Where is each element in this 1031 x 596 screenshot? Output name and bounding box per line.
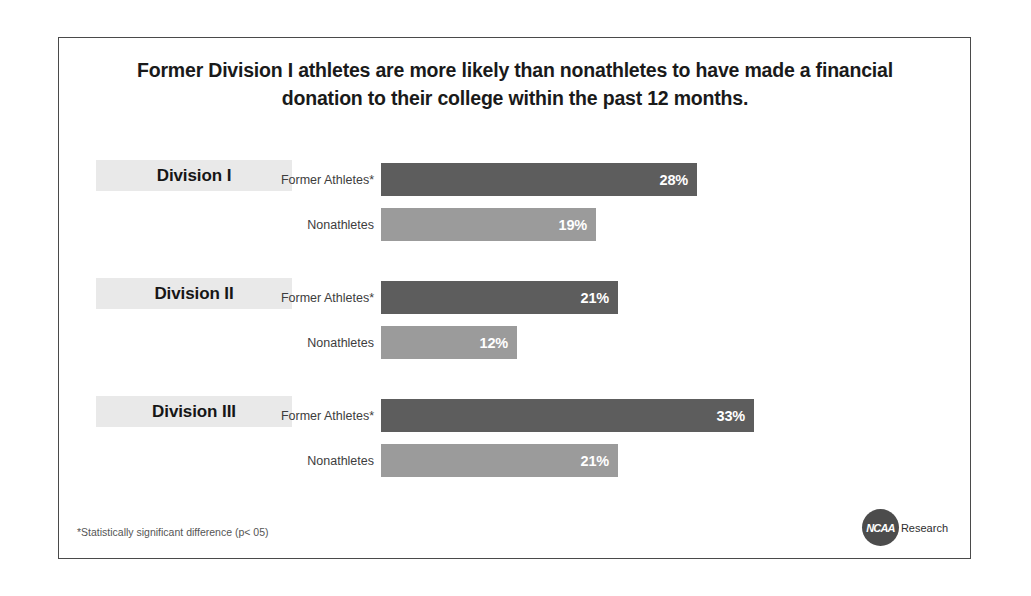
bar-row-label: Nonathletes [199, 218, 374, 232]
bar-row: Former Athletes* 33% [59, 396, 972, 435]
bar-track: 12% [381, 326, 517, 359]
bar-former-athletes: 21% [381, 281, 618, 314]
bar-value-label: 28% [660, 172, 688, 188]
ncaa-logo-mark: NCAA [866, 522, 895, 534]
footnote: *Statistically significant difference (p… [77, 526, 269, 538]
bar-row: Nonathletes 19% [59, 205, 972, 244]
bar-track: 21% [381, 444, 618, 477]
bar-row-label: Former Athletes* [199, 291, 374, 305]
bar-value-label: 12% [480, 335, 508, 351]
bar-value-label: 21% [581, 290, 609, 306]
bar-former-athletes: 33% [381, 399, 754, 432]
slide-frame: Former Division I athletes are more like… [58, 37, 971, 559]
ncaa-logo-icon: NCAA [862, 509, 899, 546]
bar-nonathletes: 21% [381, 444, 618, 477]
division-group-3: Division III Former Athletes* 33% Nonath… [59, 396, 972, 480]
bar-nonathletes: 12% [381, 326, 517, 359]
bar-track: 19% [381, 208, 596, 241]
bar-track: 33% [381, 399, 754, 432]
bar-row-label: Nonathletes [199, 454, 374, 468]
bar-row-label: Nonathletes [199, 336, 374, 350]
bar-row-label: Former Athletes* [199, 173, 374, 187]
bar-value-label: 33% [717, 408, 745, 424]
bar-nonathletes: 19% [381, 208, 596, 241]
bar-former-athletes: 28% [381, 163, 697, 196]
ncaa-logo-text: Research [901, 522, 948, 534]
chart-plot-area: Division I Former Athletes* 28% Nonathle… [59, 126, 972, 494]
bar-track: 28% [381, 163, 697, 196]
bar-value-label: 21% [581, 453, 609, 469]
division-group-1: Division I Former Athletes* 28% Nonathle… [59, 160, 972, 244]
bar-value-label: 19% [559, 217, 587, 233]
bar-row: Former Athletes* 28% [59, 160, 972, 199]
division-group-2: Division II Former Athletes* 21% Nonathl… [59, 278, 972, 362]
bar-track: 21% [381, 281, 618, 314]
bar-row: Nonathletes 12% [59, 323, 972, 362]
chart-title: Former Division I athletes are more like… [97, 56, 933, 112]
bar-row: Former Athletes* 21% [59, 278, 972, 317]
ncaa-research-logo: NCAA Research [862, 509, 948, 546]
bar-row: Nonathletes 21% [59, 441, 972, 480]
bar-row-label: Former Athletes* [199, 409, 374, 423]
